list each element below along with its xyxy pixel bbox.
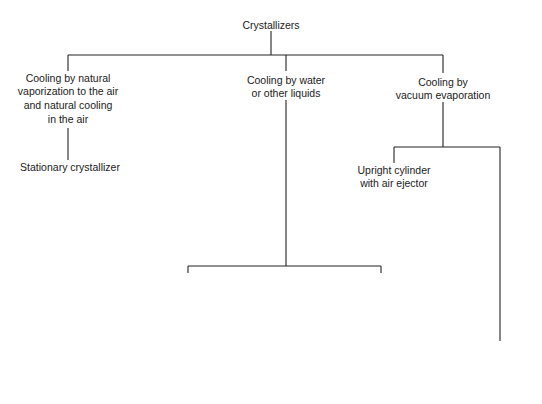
node-water-cooling: Cooling by water or other liquids [247, 74, 326, 99]
node-crystallizers: Crystallizers [242, 19, 299, 31]
node-text-line: Cooling by [418, 76, 468, 88]
node-text-line: and natural cooling [24, 99, 113, 111]
node-text-line: or other liquids [252, 87, 321, 99]
node-text-line: vacuum evaporation [396, 89, 491, 101]
node-text-line: vaporization to the air [18, 85, 119, 97]
node-text-line: Upright cylinder [358, 164, 431, 176]
node-text-line: in the air [48, 113, 89, 125]
node-text-line: Cooling by natural [26, 72, 111, 84]
node-text-line: with air ejector [359, 177, 428, 189]
node-upright-cylinder: Upright cylinder with air ejector [358, 164, 431, 189]
node-natural-cooling: Cooling by natural vaporization to the a… [18, 72, 119, 125]
node-text-line: Cooling by water [247, 74, 326, 86]
node-stationary-crystallizer: Stationary crystallizer [20, 161, 120, 173]
crystallizer-classification-diagram: Crystallizers Cooling by natural vaporiz… [0, 0, 542, 404]
node-vacuum-evaporation: Cooling by vacuum evaporation [396, 76, 491, 101]
